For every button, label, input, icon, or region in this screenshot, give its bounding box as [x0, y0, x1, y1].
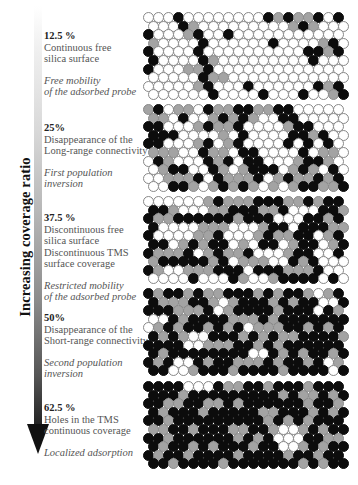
coverage-label-0: 12.5 %Continuous free silica surfaceFree… [44, 30, 154, 98]
tms-site [338, 458, 349, 469]
coverage-gradient-bar [34, 6, 42, 426]
coverage-percent: 50% [44, 312, 65, 323]
surface-grid-panel [143, 381, 349, 469]
coverage-percent: 25% [44, 122, 65, 133]
coverage-note: First population inversion [44, 167, 154, 190]
coverage-percent: 37.5 % [44, 212, 76, 223]
coverage-label-3: 50%Disappearance of the Short-range conn… [44, 312, 154, 380]
coverage-percent: 62.5 % [44, 402, 76, 413]
coverage-note: Localized adsorption [44, 447, 154, 459]
surface-grid-panel [143, 12, 349, 100]
tms-site [338, 365, 349, 376]
coverage-percent: 12.5 % [44, 30, 76, 41]
coverage-description: Disappearance of the Long-range connecti… [44, 134, 154, 157]
surface-grid-panel [143, 196, 349, 284]
coverage-note: Free mobility of the adsorbed probe [44, 75, 154, 98]
tms-site [338, 181, 349, 192]
surface-grid-panel [143, 288, 349, 376]
silica-site [338, 273, 349, 284]
coverage-description: Continuous free silica surface [44, 42, 154, 65]
surface-grid-panel [143, 104, 349, 192]
coverage-label-2: 37.5 %Discontinuous free silica surface … [44, 212, 154, 303]
coverage-description: Disappearance of the Short-range connect… [44, 324, 154, 347]
coverage-label-1: 25%Disappearance of the Long-range conne… [44, 122, 154, 190]
coverage-note: Second population inversion [44, 357, 154, 380]
tms-site [338, 89, 349, 100]
coverage-description: Discontinuous free silica surface Discon… [44, 224, 154, 270]
coverage-note: Restricted mobility of the adsorbed prob… [44, 280, 154, 303]
coverage-axis-title: Increasing coverage ratio [17, 137, 35, 337]
coverage-label-4: 62.5 %Holes in the TMS continuous covera… [44, 402, 154, 458]
coverage-description: Holes in the TMS continuous coverage [44, 414, 154, 437]
